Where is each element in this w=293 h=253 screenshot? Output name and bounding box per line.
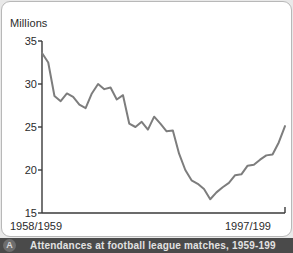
x-axis-label-end: 1997/199 xyxy=(225,220,271,232)
caption-badge-icon: A xyxy=(3,239,16,252)
caption-bar: A Attendances at football league matches… xyxy=(0,238,293,253)
plot-area: Millions 35 30 25 20 15 1958/1959 1997/1… xyxy=(0,0,293,236)
caption-text: Attendances at football league matches, … xyxy=(30,240,276,251)
line-chart-svg xyxy=(0,0,293,236)
chart-screenshot: Millions 35 30 25 20 15 1958/1959 1997/1… xyxy=(0,0,293,253)
x-axis-label-start: 1958/1959 xyxy=(10,220,62,232)
